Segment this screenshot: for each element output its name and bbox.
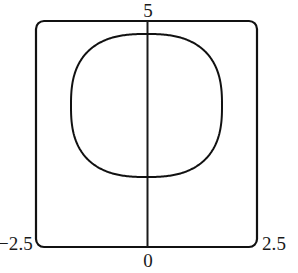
- axis-label-right: 2.5: [262, 234, 286, 253]
- axis-label-left: −2.5: [0, 234, 33, 253]
- axis-label-bottom: 0: [0, 251, 296, 270]
- plot-figure: 5 0 −2.5 2.5: [0, 0, 298, 273]
- axis-label-top: 5: [0, 1, 296, 20]
- plot-canvas: [0, 0, 298, 273]
